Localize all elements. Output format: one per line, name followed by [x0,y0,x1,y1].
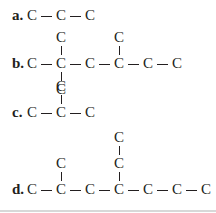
carbon-atom: C [85,56,95,71]
bond [61,172,62,181]
carbon-atom: C [201,182,211,197]
carbon-atom: C [114,182,124,197]
bond [119,146,120,155]
carbon-atom: C [56,8,66,23]
carbon-atom: C [114,156,124,171]
carbon-atom: C [56,79,66,94]
carbon-atom: C [27,182,37,197]
carbon-atom: C [27,8,37,23]
bond [99,190,110,191]
carbon-atom: C [85,8,95,23]
carbon-atom: C [143,182,153,197]
divider [0,210,216,212]
carbon-atom: C [143,56,153,71]
carbon-atom: C [114,30,124,45]
bond [41,16,52,17]
bond [41,64,52,65]
carbon-atom: C [56,182,66,197]
carbon-atom: C [114,130,124,145]
carbon-atom: C [56,30,66,45]
structure-label-d: d. [12,182,24,197]
carbon-atom: C [172,182,182,197]
bond [70,113,81,114]
bond [70,64,81,65]
bond [41,113,52,114]
bond [70,190,81,191]
bond [157,190,168,191]
carbon-atom: C [85,182,95,197]
carbon-atom: C [56,56,66,71]
bond [61,95,62,104]
bond [186,190,197,191]
bond [119,46,120,55]
carbon-atom: C [56,105,66,120]
bond [128,190,139,191]
bond [61,46,62,55]
structure-label-b: b. [12,56,24,71]
carbon-atom: C [56,156,66,171]
structure-label-c: c. [12,105,22,120]
structure-label-a: a. [12,8,23,23]
bond [119,172,120,181]
bond [41,190,52,191]
carbon-atom: C [85,105,95,120]
carbon-atom: C [27,56,37,71]
bond [99,64,110,65]
bond [157,64,168,65]
carbon-atom: C [172,56,182,71]
carbon-atom: C [27,105,37,120]
bond [128,64,139,65]
bond [70,16,81,17]
carbon-atom: C [114,56,124,71]
